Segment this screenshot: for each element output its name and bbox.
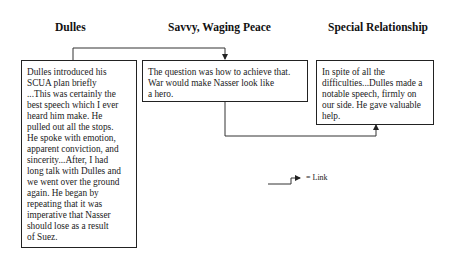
link-arrow-icon [268,178,300,184]
legend-label: = Link [306,173,328,182]
dulles-quote-box: Dulles introduced his SCUA plan briefly … [21,60,137,248]
special-relationship-quote-text: In spite of all the difficulties...Dulle… [322,67,428,122]
link-dulles-to-savvy [73,48,225,60]
special-relationship-quote-box: In spite of all the difficulties...Dulle… [316,60,434,125]
dulles-quote-text: Dulles introduced his SCUA plan briefly … [27,67,131,243]
savvy-quote-text: The question was how to achieve that. Wa… [148,67,302,100]
savvy-quote-box: The question was how to achieve that. Wa… [142,60,308,102]
